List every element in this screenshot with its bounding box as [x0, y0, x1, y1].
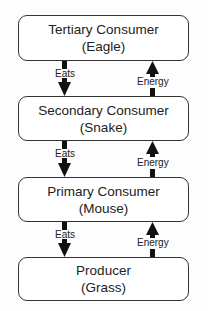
level-organism: (Mouse): [79, 200, 129, 217]
eats-label: Eats: [55, 229, 75, 240]
level-role: Secondary Consumer: [38, 102, 169, 119]
eats-label: Eats: [55, 68, 75, 79]
level-organism: (Grass): [81, 279, 126, 296]
eats-label: Eats: [55, 148, 75, 159]
level-role: Producer: [76, 262, 131, 279]
trophic-level-producer: Producer (Grass): [18, 257, 189, 301]
trophic-level-secondary: Secondary Consumer (Snake): [18, 96, 189, 141]
energy-label: Energy: [137, 237, 169, 248]
level-role: Primary Consumer: [47, 183, 160, 200]
energy-label: Energy: [137, 157, 169, 168]
level-role: Tertiary Consumer: [48, 21, 158, 38]
eats-arrow-2: [58, 141, 71, 177]
level-organism: (Eagle): [82, 38, 126, 55]
trophic-level-tertiary: Tertiary Consumer (Eagle): [18, 15, 189, 61]
level-organism: (Snake): [80, 119, 127, 136]
energy-label: Energy: [137, 76, 169, 87]
trophic-level-primary: Primary Consumer (Mouse): [18, 177, 189, 222]
